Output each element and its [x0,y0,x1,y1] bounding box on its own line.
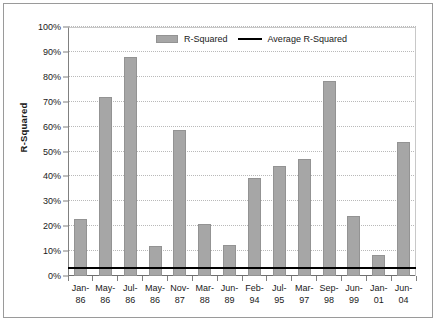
x-axis-label-sep-98: Sep-98 [317,283,342,306]
y-axis-title: R-Squared [18,73,29,183]
x-tick-cell [267,276,292,281]
x-label-line1: Mar- [195,283,214,293]
x-axis-ticks [68,276,416,281]
legend-item-r-squared: R-Squared [156,34,228,44]
x-axis-label-may-86: May-86 [93,283,118,306]
x-label-line2: 97 [292,295,317,307]
x-tick-cell [192,276,217,281]
bar-slot [143,27,168,276]
y-tick-label: 40% [43,171,61,181]
x-tick-cell [242,276,267,281]
x-label-line1: Jul- [272,283,287,293]
bar-slot [242,27,267,276]
x-label-line1: Nov- [170,283,189,293]
bar-slot [118,27,143,276]
y-tick-label: 30% [43,196,61,206]
bar-jan-01[interactable] [372,255,385,276]
bar-nov-87[interactable] [173,130,186,276]
x-tick-mark [68,276,69,281]
y-tick-label: 0% [48,271,61,281]
bar-may-86[interactable] [149,246,162,276]
x-label-line2: 01 [366,295,391,307]
x-tick-cell [292,276,317,281]
x-axis-label-nov-87: Nov-87 [167,283,192,306]
x-axis-label-jun-99: Jun-99 [341,283,366,306]
x-label-line1: Jan- [370,283,388,293]
x-tick-mark [92,276,93,281]
bar-jul-95[interactable] [273,166,286,276]
bar-jun-89[interactable] [223,245,236,276]
legend-line-swatch-icon [238,38,262,40]
x-label-line2: 86 [68,295,93,307]
chart-figure-frame: R-Squared 0%10%20%30%40%50%60%70%80%90%1… [3,3,433,318]
x-tick-cell [118,276,143,281]
bar-sep-98[interactable] [323,81,336,276]
bar-slot [217,27,242,276]
x-label-line2: 89 [217,295,242,307]
bar-slot [68,27,93,276]
x-tick-cell [93,276,118,281]
bar-slot [317,27,342,276]
bar-mar-97[interactable] [298,159,311,276]
x-tick-cell [68,276,93,281]
x-label-line1: Jul- [123,283,138,293]
bar-jun-04[interactable] [397,142,410,276]
y-tick-label: 70% [43,97,61,107]
x-axis-label-jul-95: Jul-95 [267,283,292,306]
x-axis-label-jan-86: Jan-86 [68,283,93,306]
x-axis-label-mar-97: Mar-97 [292,283,317,306]
x-label-line1: Jan- [72,283,90,293]
x-label-line1: Feb- [245,283,264,293]
legend-label-r-squared: R-Squared [184,34,228,44]
x-axis-label-jun-04: Jun-04 [391,283,416,306]
y-tick-label: 100% [38,22,61,32]
bar-slot [93,27,118,276]
bar-feb-94[interactable] [248,178,261,276]
x-label-line2: 86 [143,295,168,307]
x-label-line1: May- [95,283,115,293]
x-axis-label-jan-01: Jan-01 [366,283,391,306]
bar-may-86[interactable] [99,97,112,276]
x-tick-mark [117,276,118,281]
x-tick-mark [167,276,168,281]
y-tick-label: 60% [43,122,61,132]
x-label-line2: 86 [118,295,143,307]
x-axis-label-jun-89: Jun-89 [217,283,242,306]
x-tick-cell [366,276,391,281]
x-tick-cell [217,276,242,281]
y-tick-label: 20% [43,221,61,231]
bar-slot [341,27,366,276]
bar-slot [192,27,217,276]
y-tick-label: 90% [43,47,61,57]
legend-label-average-r-squared: Average R-Squared [268,34,347,44]
x-label-line2: 99 [341,295,366,307]
x-tick-mark [391,276,392,281]
bar-slot [167,27,192,276]
x-tick-mark [217,276,218,281]
bar-slot [391,27,416,276]
x-label-line2: 86 [93,295,118,307]
x-label-line2: 88 [192,295,217,307]
x-tick-cell [143,276,168,281]
x-label-line2: 87 [167,295,192,307]
x-label-line1: May- [145,283,165,293]
x-tick-cell [341,276,366,281]
x-tick-mark [142,276,143,281]
x-axis-label-feb-94: Feb-94 [242,283,267,306]
average-rsquared-line [68,267,416,269]
x-tick-mark [341,276,342,281]
y-tick-label: 10% [43,246,61,256]
legend-item-average-r-squared: Average R-Squared [238,34,347,44]
y-tick-label: 80% [43,72,61,82]
bar-slot [292,27,317,276]
x-label-line1: Jun- [345,283,363,293]
x-label-line1: Mar- [295,283,314,293]
x-tick-mark [416,276,417,281]
bar-jul-86[interactable] [124,57,137,276]
x-label-line1: Jun- [221,283,239,293]
x-tick-mark [242,276,243,281]
x-tick-mark [266,276,267,281]
x-label-line2: 04 [391,295,416,307]
plot-area: 0%10%20%30%40%50%60%70%80%90%100% [68,27,416,276]
x-axis-label-may-86: May-86 [143,283,168,306]
